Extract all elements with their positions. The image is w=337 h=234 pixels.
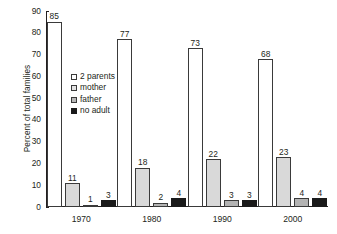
bar-column: 4 [312,11,327,207]
bar-2000-no-adult: 4 [312,198,327,207]
y-axis-tick-label: 10 [32,180,41,190]
bar-2000-mother: 23 [276,157,291,207]
bar-column: 18 [135,11,150,207]
bar-1990-mother: 22 [206,159,221,207]
bar-chart: Percent of total families 01020304050607… [0,0,337,234]
bar-column: 3 [242,11,257,207]
legend-swatch-icon [71,74,77,80]
y-axis-tick-label: 50 [32,93,41,103]
y-axis-tick-label: 0 [36,202,41,212]
bar-column: 77 [117,11,132,207]
bar-value-label: 1 [88,195,93,203]
bar-value-label: 77 [120,30,129,38]
y-axis-tick-label: 90 [32,6,41,16]
legend-swatch-icon [71,108,77,114]
legend-swatch-icon [71,97,77,103]
x-axis-tick-label-1990: 1990 [187,207,258,224]
bar-group-bars: 732233 [187,11,258,207]
bar-1970-2-parents: 85 [47,22,62,207]
bar-value-label: 3 [229,191,234,199]
bar-value-label: 73 [191,39,200,47]
x-axis-tick-label-1970: 1970 [46,207,117,224]
bar-value-label: 3 [247,191,252,199]
y-axis-tick-label: 40 [32,114,41,124]
bar-column: 23 [276,11,291,207]
bar-column: 4 [171,11,186,207]
legend-item-father[interactable]: father [71,95,115,105]
chart-legend: 2 parentsmotherfatherno adult [71,72,115,116]
legend-item-label: 2 parents [80,72,115,82]
bar-value-label: 4 [317,189,322,197]
y-axis-tick-label: 70 [32,49,41,59]
bar-column: 2 [153,11,168,207]
bar-2000-father: 4 [294,198,309,207]
y-axis-tick-label: 20 [32,158,41,168]
bar-value-label: 11 [68,174,77,182]
x-axis-ticks: 1970198019902000 [46,207,328,224]
bar-group-bars: 771824 [117,11,188,207]
bar-value-label: 3 [106,191,111,199]
bar-1980-mother: 18 [135,168,150,207]
x-axis-tick-label-1980: 1980 [117,207,188,224]
bar-column: 85 [47,11,62,207]
bar-value-label: 2 [158,193,163,201]
bar-group-2000: 682344 [258,11,329,207]
bar-1970-mother: 11 [65,183,80,207]
bar-group-1980: 771824 [117,11,188,207]
bar-column: 22 [206,11,221,207]
bar-column: 73 [188,11,203,207]
legend-swatch-icon [71,85,77,91]
bar-group-bars: 682344 [258,11,329,207]
bar-value-label: 85 [50,12,59,20]
legend-item-mother[interactable]: mother [71,83,115,93]
bar-value-label: 68 [261,50,270,58]
legend-item-label: mother [80,83,106,93]
y-axis-tick-label: 30 [32,136,41,146]
y-axis-tick-label: 60 [32,71,41,81]
y-axis-title: Percent of total families [23,39,32,179]
bar-column: 3 [224,11,239,207]
legend-item-no-adult[interactable]: no adult [71,106,115,116]
legend-item-label: no adult [80,106,110,116]
bar-value-label: 23 [279,148,288,156]
bar-value-label: 4 [176,189,181,197]
legend-item-label: father [80,95,101,105]
bar-value-label: 18 [138,158,147,166]
bar-1980-no-adult: 4 [171,198,186,207]
bar-column: 68 [258,11,273,207]
y-axis-tick-label: 80 [32,27,41,37]
bar-2000-2-parents: 68 [258,59,273,207]
bar-1980-2-parents: 77 [117,39,132,207]
bar-1990-2-parents: 73 [188,48,203,207]
legend-item-2-parents[interactable]: 2 parents [71,72,115,82]
x-axis-tick-label-2000: 2000 [258,207,329,224]
bar-column: 4 [294,11,309,207]
bar-value-label: 4 [299,189,304,197]
bar-value-label: 22 [209,150,218,158]
bar-group-1990: 732233 [187,11,258,207]
